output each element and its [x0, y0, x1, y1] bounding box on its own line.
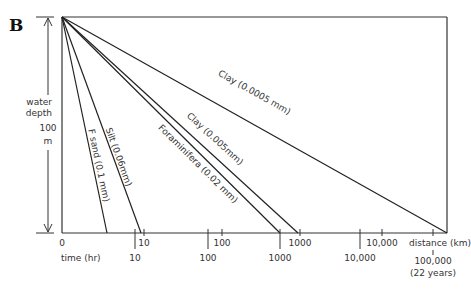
time-tick-1000: 1000: [269, 253, 292, 263]
time-axis-label: time (hr): [61, 253, 101, 263]
label-clay-00005: Clay (0.0005 mm): [217, 68, 293, 117]
time-tick-10000: 10,000: [344, 253, 376, 263]
distance-tick-10: 10: [138, 238, 150, 248]
settling-lines: [62, 17, 447, 233]
origin-tick: 0: [59, 238, 65, 248]
line-f-sand: [62, 17, 107, 233]
distance-tick-100: 100: [213, 238, 230, 248]
label-foraminifera: Foraminifera (0.02 mm): [156, 123, 239, 206]
time-note-22-years: (22 years): [410, 268, 456, 278]
line-foraminifera: [62, 17, 280, 233]
distance-tick-1000: 1000: [289, 238, 312, 248]
depth-label-value: 100: [39, 123, 56, 133]
label-silt: Silt (0.06mm): [104, 126, 135, 187]
distance-axis-label: distance (km): [409, 238, 471, 248]
depth-label-depth: depth: [26, 108, 52, 118]
depth-label-unit: m: [44, 136, 53, 146]
time-tick-100: 100: [199, 253, 216, 263]
time-tick-10: 10: [129, 253, 141, 263]
panel-label: B: [9, 15, 23, 35]
distance-tick-10000: 10,000: [366, 238, 398, 248]
depth-label-water: water: [26, 97, 52, 107]
settling-diagram: B water depth 100 m F sand (0.1 mm) Silt…: [0, 0, 471, 289]
line-clay-00005: [62, 17, 447, 233]
time-tick-100000: 100,000: [414, 256, 451, 266]
line-clay-0005: [62, 17, 298, 233]
